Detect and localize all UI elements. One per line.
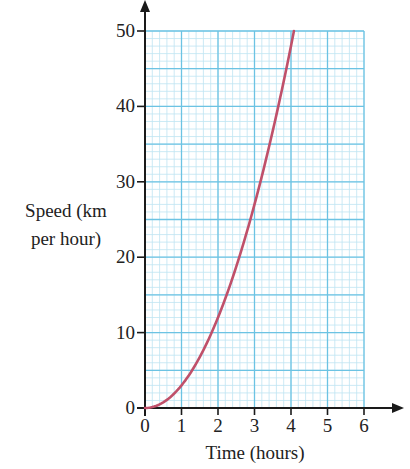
y-tick-label: 10 (116, 322, 135, 343)
speed-time-chart: 012345601020304050 Speed (km per hour) T… (0, 0, 410, 469)
x-tick-label: 2 (213, 415, 223, 436)
x-tick-label: 0 (140, 415, 150, 436)
x-tick-label: 6 (359, 415, 369, 436)
y-tick-label: 30 (116, 171, 135, 192)
y-tick-label: 20 (116, 246, 135, 267)
x-tick-label: 1 (177, 415, 187, 436)
x-axis-label: Time (hours) (205, 442, 304, 464)
grid (145, 31, 364, 408)
y-axis-label-line1: Speed (km (25, 200, 107, 222)
x-tick-label: 3 (250, 415, 260, 436)
x-tick-label: 5 (323, 415, 333, 436)
y-tick-label: 40 (116, 95, 135, 116)
y-tick-label: 0 (126, 397, 136, 418)
tick-labels: 012345601020304050 (116, 20, 369, 436)
y-tick-label: 50 (116, 20, 135, 41)
x-tick-label: 4 (286, 415, 296, 436)
y-axis-label-line2: per hour) (31, 228, 101, 250)
